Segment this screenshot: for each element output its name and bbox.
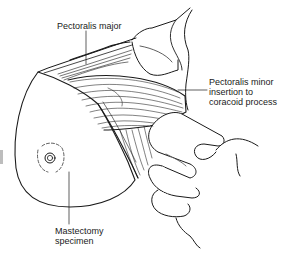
label-line: Pectoralis minor xyxy=(209,77,277,87)
label-line: coracoid process xyxy=(209,97,277,107)
label-pectoralis-minor: Pectoralis minor insertion to coracoid p… xyxy=(209,77,277,107)
label-mastectomy-specimen: Mastectomy specimen xyxy=(55,226,104,246)
label-pectoralis-major: Pectoralis major xyxy=(57,21,122,31)
mastectomy-illustration xyxy=(0,0,284,257)
label-line: insertion to xyxy=(209,87,277,97)
label-line: Mastectomy xyxy=(55,226,104,236)
retracting-hand xyxy=(149,113,259,249)
label-line: Pectoralis major xyxy=(57,21,122,31)
label-line: specimen xyxy=(55,236,104,246)
